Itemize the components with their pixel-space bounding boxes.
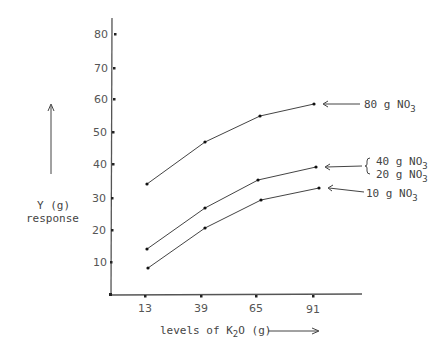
x-ticks: 13 39 65 91 xyxy=(138,295,320,316)
y-tick-label: 70 xyxy=(94,62,108,75)
series-40-20g-no3 xyxy=(145,165,317,250)
y-axis xyxy=(111,18,112,295)
series-label-80g: 80 g NO3 xyxy=(364,98,416,114)
x-tick-label: 39 xyxy=(194,302,208,315)
y-axis-label: Y (g) xyxy=(37,199,70,212)
series-label-10g: 10 g NO3 xyxy=(366,187,418,203)
x-axis-label: levels of K2O (g) xyxy=(160,324,271,339)
series-label-20g: 20 g NO3 xyxy=(376,168,428,184)
annotation-arrows xyxy=(323,101,370,192)
y-tick-label: 20 xyxy=(92,224,106,237)
y-axis-arrow-icon xyxy=(48,104,54,174)
y-axis-label-2: response xyxy=(26,212,79,225)
y-ticks: 80 70 60 50 40 30 20 10 xyxy=(92,28,117,269)
x-tick-label: 13 xyxy=(138,302,152,315)
y-tick-label: 30 xyxy=(92,192,106,205)
x-axis-arrow-icon xyxy=(268,328,319,334)
series-10g-no3 xyxy=(146,186,320,269)
x-axis xyxy=(111,294,362,295)
y-tick-label: 80 xyxy=(94,28,108,41)
y-tick-label: 40 xyxy=(93,158,107,171)
origin-mark xyxy=(109,293,112,296)
y-tick-label: 50 xyxy=(93,126,107,139)
x-tick-label: 65 xyxy=(249,302,263,315)
y-tick-label: 60 xyxy=(94,93,108,106)
x-tick-label: 91 xyxy=(306,303,320,316)
y-tick-label: 10 xyxy=(93,256,107,269)
line-chart: 80 70 60 50 40 30 20 10 13 39 65 91 xyxy=(0,0,446,357)
